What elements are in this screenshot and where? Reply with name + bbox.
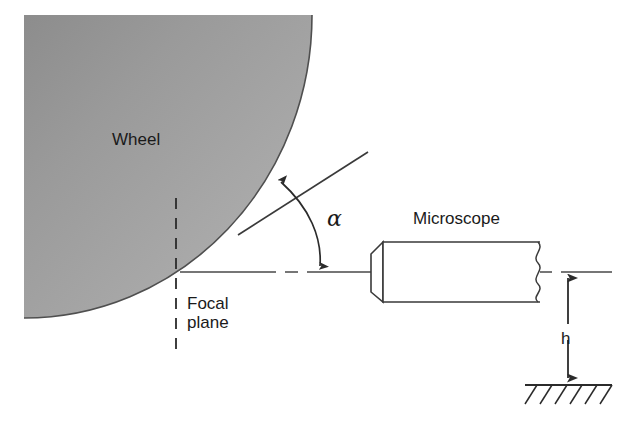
- microscope-objective-taper: [371, 242, 383, 302]
- focal-plane-label: Focal plane: [187, 294, 229, 332]
- height-h-label: h: [561, 329, 570, 348]
- microscope-tube-outline: [383, 242, 540, 302]
- ground-hatching: [525, 385, 612, 404]
- microscope-label: Microscope: [413, 209, 500, 228]
- wheel-label: Wheel: [112, 130, 160, 149]
- ground-datum: [525, 385, 612, 404]
- wheel-quarter-circle: [0, 0, 312, 318]
- angle-alpha-label: α: [327, 207, 342, 232]
- diagram-svg: [0, 0, 629, 427]
- diagram-canvas: Wheel Focal plane Microscope α h: [0, 0, 629, 427]
- wheel-shape: [0, 0, 312, 318]
- microscope-body: [371, 242, 540, 302]
